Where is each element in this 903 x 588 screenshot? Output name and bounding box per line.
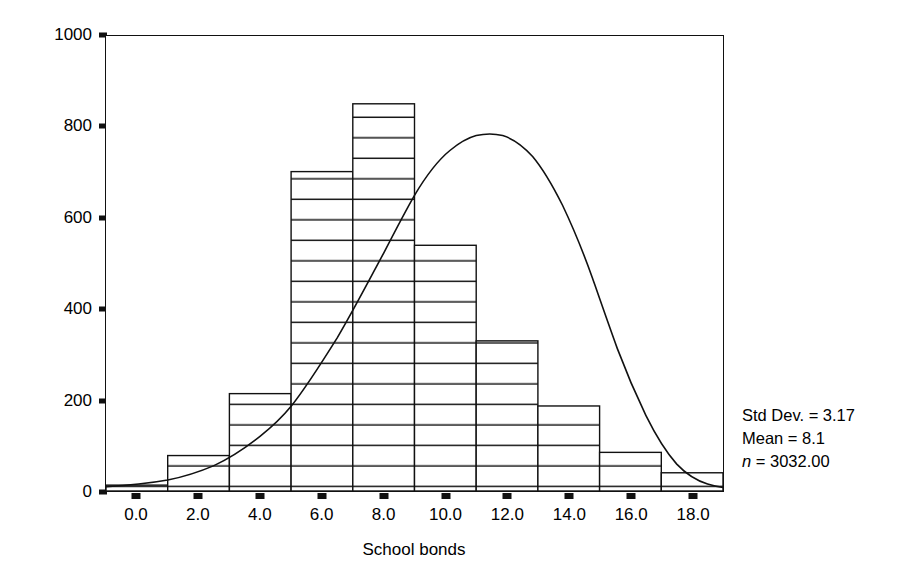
- bar-bin-2: [229, 394, 291, 491]
- x-tick-label-4: 4.0: [248, 505, 272, 525]
- bar-bin-9: [661, 473, 723, 491]
- plot-area: [105, 35, 724, 492]
- x-tick-mark-12: [503, 493, 512, 499]
- x-tick-label-0: 0.0: [124, 505, 148, 525]
- histogram-bars: [106, 104, 723, 491]
- y-axis-tick-labels: 1000 800 600 400 200 0: [30, 35, 92, 492]
- x-tick-mark-14: [565, 493, 574, 499]
- x-tick-label-8: 8.0: [372, 505, 396, 525]
- stat-mean: Mean = 8.1: [742, 427, 855, 450]
- bar-bin-6: [476, 341, 538, 491]
- x-tick-mark-6: [317, 493, 326, 499]
- x-tick-label-10: 10.0: [429, 505, 462, 525]
- x-tick-mark-10: [441, 493, 450, 499]
- y-tick-label-0: 0: [83, 482, 92, 502]
- x-tick-mark-16: [627, 493, 636, 499]
- bar-bin-5: [415, 245, 477, 491]
- y-tick-label-200: 200: [64, 391, 92, 411]
- bar-bin-7: [538, 406, 600, 491]
- x-tick-label-6: 6.0: [310, 505, 334, 525]
- x-tick-mark-18: [689, 493, 698, 499]
- x-tick-mark-4: [255, 493, 264, 499]
- y-tick-label-600: 600: [64, 208, 92, 228]
- plot-svg: [106, 36, 723, 491]
- bar-bin-4: [353, 104, 415, 491]
- x-tick-label-16: 16.0: [615, 505, 648, 525]
- y-tick-label-1000: 1000: [54, 25, 92, 45]
- histogram-figure: Number 1000 800 600 400 200 0: [0, 0, 903, 588]
- x-tick-mark-8: [379, 493, 388, 499]
- bar-bin-3: [291, 172, 353, 491]
- x-axis-title: School bonds: [362, 540, 465, 560]
- x-tick-label-2: 2.0: [186, 505, 210, 525]
- y-tick-label-800: 800: [64, 116, 92, 136]
- stat-n-symbol: n: [742, 452, 751, 470]
- x-tick-mark-0: [132, 493, 141, 499]
- bar-bin-8: [600, 452, 662, 491]
- stat-n: n = 3032.00: [742, 450, 855, 473]
- stat-n-value: = 3032.00: [751, 452, 829, 470]
- x-tick-mark-2: [193, 493, 202, 499]
- x-tick-label-18: 18.0: [677, 505, 710, 525]
- y-tick-label-400: 400: [64, 299, 92, 319]
- stat-std-dev: Std Dev. = 3.17: [742, 404, 855, 427]
- x-tick-label-14: 14.0: [553, 505, 586, 525]
- bar-bin-1: [168, 456, 230, 491]
- statistics-annotation: Std Dev. = 3.17 Mean = 8.1 n = 3032.00: [742, 404, 855, 473]
- x-tick-label-12: 12.0: [491, 505, 524, 525]
